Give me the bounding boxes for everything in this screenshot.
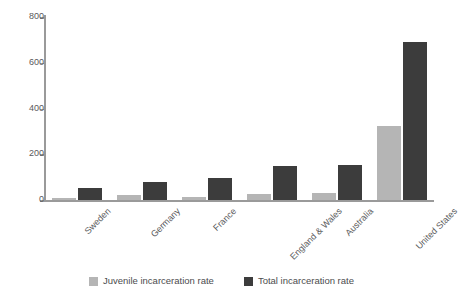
bar [52, 198, 76, 200]
bar [247, 194, 271, 200]
x-axis-label: United States [413, 206, 458, 251]
bar-group [377, 17, 427, 200]
bar-group [247, 17, 297, 200]
plot-area [44, 17, 434, 200]
bar [143, 182, 167, 200]
bar [182, 197, 206, 200]
bar [377, 126, 401, 200]
bar-group [52, 17, 102, 200]
y-tick-label: 200 [10, 149, 44, 158]
y-tick-label: 400 [10, 104, 44, 113]
bar-group [117, 17, 167, 200]
x-axis-label: England & Wales [288, 206, 344, 262]
y-tick-label: 800 [10, 12, 44, 21]
bar [117, 195, 141, 200]
y-tick-label: 600 [10, 58, 44, 67]
bar [208, 178, 232, 200]
bar [273, 166, 297, 200]
legend-swatch-juvenile-icon [89, 277, 98, 286]
bar [403, 42, 427, 200]
x-axis-line [44, 200, 434, 202]
legend-label: Juvenile incarceration rate [103, 276, 214, 286]
y-tick-label: 0 [10, 195, 44, 204]
bar [312, 193, 336, 200]
bar [78, 188, 102, 200]
chart-legend: Juvenile incarceration rateTotal incarce… [0, 276, 443, 286]
legend-item: Juvenile incarceration rate [89, 276, 214, 286]
x-axis-label: Germany [148, 206, 181, 239]
legend-item: Total incarceration rate [244, 276, 354, 286]
bar-group [312, 17, 362, 200]
x-axis-label: Australia [343, 206, 375, 238]
legend-swatch-total-icon [244, 277, 253, 286]
x-axis-label: France [211, 206, 238, 233]
bar [338, 165, 362, 200]
bar-group [182, 17, 232, 200]
x-axis-label: Sweden [82, 206, 112, 236]
legend-label: Total incarceration rate [258, 276, 354, 286]
